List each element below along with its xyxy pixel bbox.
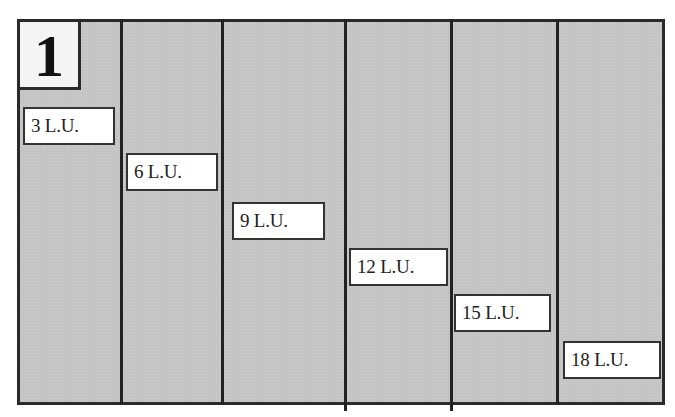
column-label-4: 12 L.U. bbox=[349, 248, 448, 286]
column-label-6: 18 L.U. bbox=[563, 341, 661, 379]
column-divider bbox=[450, 19, 453, 411]
diagram-frame: 1 3 L.U. 6 L.U. 9 L.U. 12 L.U. 15 L.U. 1… bbox=[17, 19, 665, 405]
column-divider bbox=[556, 19, 559, 405]
column-label-1: 3 L.U. bbox=[23, 107, 115, 145]
column-divider bbox=[120, 19, 123, 405]
column-label-3: 9 L.U. bbox=[232, 202, 325, 240]
column-label-2: 6 L.U. bbox=[126, 153, 218, 191]
column-divider bbox=[221, 19, 224, 405]
column-label-5: 15 L.U. bbox=[454, 294, 551, 332]
column-divider bbox=[344, 19, 347, 411]
panel-number-box: 1 bbox=[20, 22, 81, 90]
panel-number: 1 bbox=[34, 26, 64, 86]
